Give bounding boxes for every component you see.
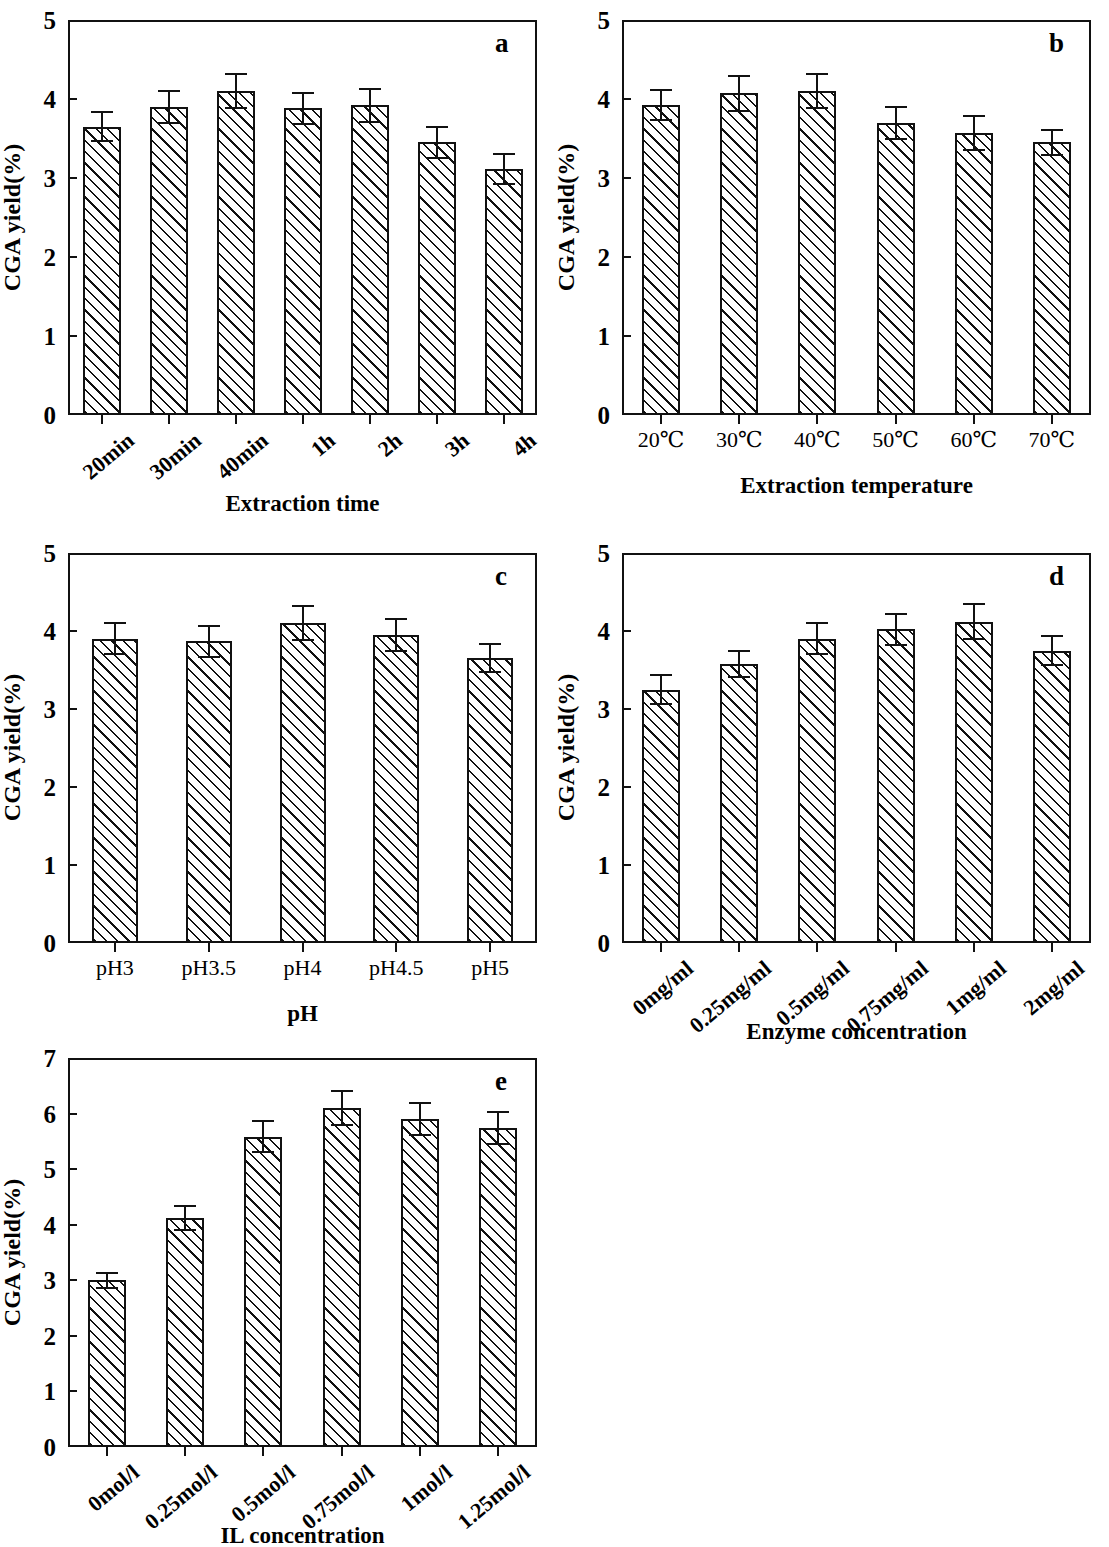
ytick-mark-e	[68, 1335, 77, 1337]
panel-letter-e: e	[495, 1066, 507, 1097]
ytick-label-e: 3	[26, 1268, 56, 1293]
bar-e-1	[166, 1218, 204, 1447]
ytick-label-e: 2	[26, 1323, 56, 1348]
error-bar-cap-e-5-upper	[487, 1111, 509, 1113]
xtick-mark-e-1	[184, 1447, 186, 1456]
error-bar-cap-e-3-lower	[331, 1124, 353, 1126]
error-bar-cap-e-3-upper	[331, 1090, 353, 1092]
ytick-mark-e	[68, 1279, 77, 1281]
ytick-label-e: 1	[26, 1379, 56, 1404]
error-bar-stem-e-3	[341, 1091, 343, 1125]
bar-e-5	[479, 1128, 517, 1447]
ytick-mark-e	[68, 1113, 77, 1115]
error-bar-cap-e-4-lower	[409, 1134, 431, 1136]
xtick-mark-e-2	[262, 1447, 264, 1456]
ytick-label-e: 6	[26, 1101, 56, 1126]
ytick-label-e: 0	[26, 1435, 56, 1460]
ytick-mark-e	[68, 1168, 77, 1170]
ytick-label-e: 7	[26, 1046, 56, 1071]
bar-e-3	[323, 1108, 361, 1447]
error-bar-cap-e-2-lower	[252, 1151, 274, 1153]
xtick-mark-e-0	[106, 1447, 108, 1456]
ytick-mark-e	[68, 1390, 77, 1392]
error-bar-stem-e-1	[184, 1206, 186, 1230]
error-bar-cap-e-1-upper	[174, 1205, 196, 1207]
y-axis-label-e: CGA yield(%)	[0, 1142, 26, 1362]
xtick-mark-e-5	[497, 1447, 499, 1456]
plot-frame-e	[68, 1058, 537, 1447]
xtick-mark-e-3	[341, 1447, 343, 1456]
error-bar-cap-e-2-upper	[252, 1120, 274, 1122]
ytick-label-e: 5	[26, 1157, 56, 1182]
error-bar-cap-e-0-upper	[96, 1272, 118, 1274]
error-bar-cap-e-1-lower	[174, 1229, 196, 1231]
error-bar-stem-e-0	[106, 1273, 108, 1287]
bar-e-0	[88, 1280, 126, 1447]
bar-e-4	[401, 1119, 439, 1447]
error-bar-stem-e-5	[497, 1112, 499, 1144]
error-bar-cap-e-4-upper	[409, 1102, 431, 1104]
bar-e-2	[244, 1137, 282, 1447]
ytick-label-e: 4	[26, 1212, 56, 1237]
xtick-mark-e-4	[419, 1447, 421, 1456]
error-bar-stem-e-2	[262, 1121, 264, 1152]
ytick-mark-e	[68, 1224, 77, 1226]
x-axis-label-e: IL concentration	[220, 1523, 384, 1547]
error-bar-stem-e-4	[419, 1103, 421, 1135]
error-bar-cap-e-0-lower	[96, 1287, 118, 1289]
error-bar-cap-e-5-lower	[487, 1143, 509, 1145]
